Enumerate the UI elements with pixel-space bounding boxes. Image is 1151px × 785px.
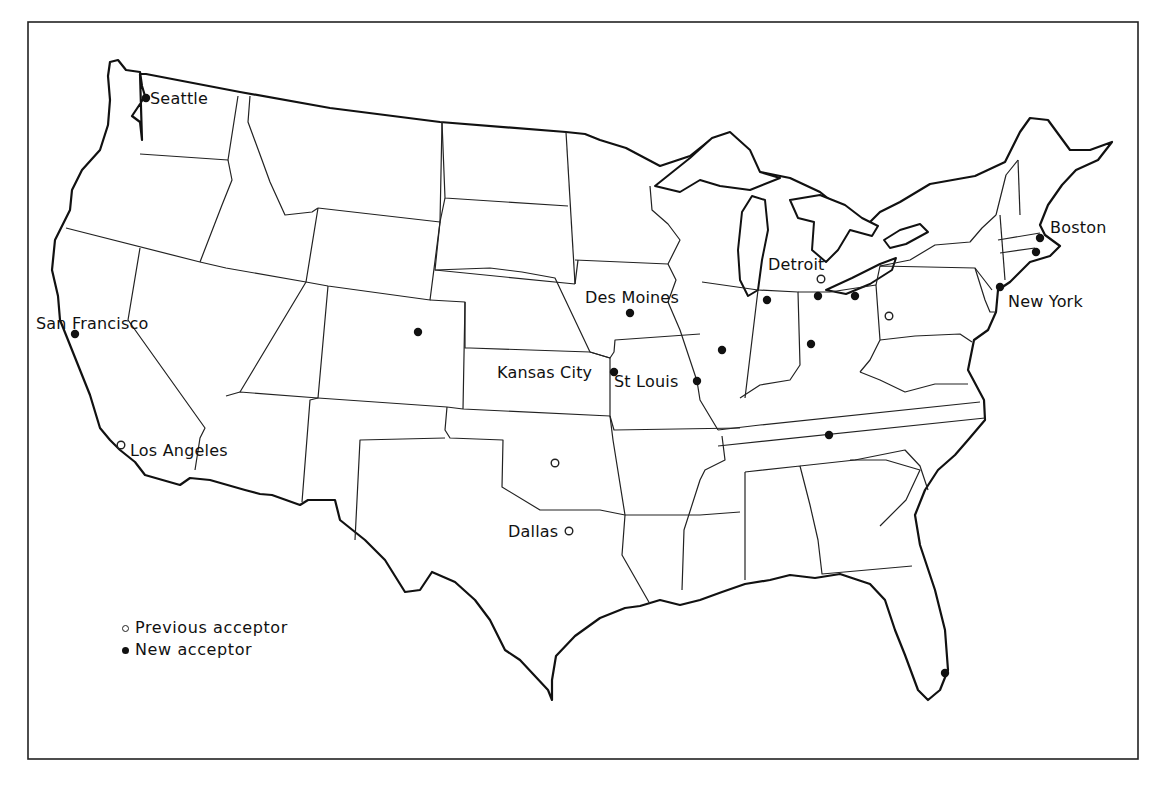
- new-acceptor-marker-des-moines: [626, 309, 634, 317]
- legend-item-new: New acceptor: [122, 639, 288, 661]
- new-acceptor-marker-colorado: [414, 328, 422, 336]
- filled-circle-icon: [122, 647, 129, 654]
- previous-acceptor-marker-detroit: [817, 275, 825, 283]
- lake-erie: [826, 258, 896, 294]
- new-acceptor-marker-tennessee: [825, 431, 833, 439]
- previous-acceptor-marker-dallas: [565, 527, 573, 535]
- legend-label-new: New acceptor: [135, 639, 252, 661]
- new-acceptor-marker-new-york: [996, 283, 1004, 291]
- new-acceptor-marker-florida: [941, 669, 949, 677]
- us-map: [0, 0, 1151, 785]
- acceptor-markers: [71, 94, 1044, 677]
- new-acceptor-marker-ohio-toledo: [814, 292, 822, 300]
- map-legend: Previous acceptor New acceptor: [122, 617, 288, 661]
- previous-acceptor-marker-oklahoma: [551, 459, 559, 467]
- city-label-des-moines: Des Moines: [585, 289, 679, 307]
- city-label-dallas: Dallas: [508, 523, 558, 541]
- city-label-san-francisco: San Francisco: [36, 315, 149, 333]
- new-acceptor-marker-seattle: [142, 94, 150, 102]
- new-acceptor-marker-boston: [1036, 234, 1044, 242]
- new-acceptor-marker-indiana: [763, 296, 771, 304]
- legend-label-previous: Previous acceptor: [135, 617, 288, 639]
- city-label-los-angeles: Los Angeles: [130, 442, 228, 460]
- new-acceptor-marker-ohio: [807, 340, 815, 348]
- new-acceptor-marker-ohio-cleveland: [851, 292, 859, 300]
- new-acceptor-marker-illinois: [718, 346, 726, 354]
- lake-michigan: [738, 196, 768, 296]
- legend-item-previous: Previous acceptor: [122, 617, 288, 639]
- lake-huron: [790, 195, 878, 262]
- previous-acceptor-marker-pennsylvania: [885, 312, 893, 320]
- previous-acceptor-marker-los-angeles: [117, 441, 125, 449]
- new-acceptor-marker-st-louis: [693, 377, 701, 385]
- city-label-seattle: Seattle: [150, 90, 208, 108]
- city-label-st-louis: St Louis: [614, 373, 678, 391]
- new-acceptor-marker-boston-area: [1032, 248, 1040, 256]
- lake-ontario: [884, 224, 928, 248]
- city-label-detroit: Detroit: [768, 256, 825, 274]
- open-circle-icon: [122, 625, 129, 632]
- city-label-new-york: New York: [1008, 293, 1083, 311]
- city-label-kansas-city: Kansas City: [497, 364, 592, 382]
- city-label-boston: Boston: [1050, 219, 1107, 237]
